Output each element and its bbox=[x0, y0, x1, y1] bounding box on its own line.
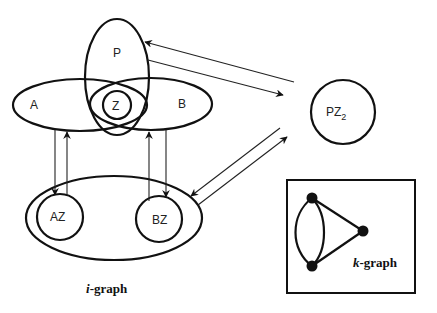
i-graph-caption: i-graph bbox=[86, 281, 128, 296]
k-graph: k-graph bbox=[287, 180, 415, 293]
i-graph: AZ BZ i-graph bbox=[26, 176, 202, 296]
set-a-label: A bbox=[30, 98, 38, 112]
k-graph-node-bottom[interactable] bbox=[307, 261, 318, 272]
arrow-pz2-to-p bbox=[145, 42, 294, 82]
k-graph-node-top[interactable] bbox=[307, 193, 318, 204]
set-z-label: Z bbox=[112, 99, 119, 113]
set-diagram: P A B Z PZ2 AZ BZ i-graph k-graph bbox=[0, 0, 437, 313]
k-graph-caption: k-graph bbox=[353, 255, 398, 270]
arrow-pz2-to-i-graph bbox=[191, 128, 280, 196]
k-graph-node-right[interactable] bbox=[358, 226, 369, 237]
arrow-i-graph-to-pz2 bbox=[198, 137, 287, 205]
pz2-node[interactable]: PZ2 bbox=[311, 80, 375, 144]
set-b-label: B bbox=[178, 97, 186, 111]
az-node-label: AZ bbox=[50, 210, 65, 224]
k-graph-box[interactable] bbox=[287, 180, 415, 293]
arrow-p-to-pz2 bbox=[148, 60, 283, 95]
pz2-label: PZ2 bbox=[326, 105, 346, 122]
venn-group: P A B Z bbox=[13, 19, 212, 135]
bz-node-label: BZ bbox=[152, 213, 167, 227]
set-b-ellipse[interactable] bbox=[90, 78, 212, 130]
set-p-label: P bbox=[113, 46, 121, 60]
